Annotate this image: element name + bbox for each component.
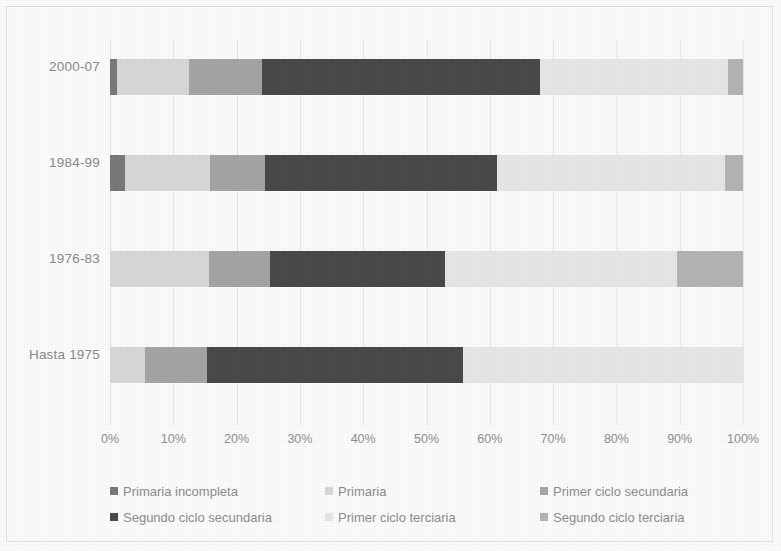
bar-segment[interactable] (110, 251, 209, 287)
legend-swatch-icon-3 (110, 513, 118, 521)
x-axis-tick-0: 0% (101, 432, 119, 446)
plot-area (110, 40, 743, 425)
x-axis-tick-20: 20% (224, 432, 249, 446)
y-axis-label-1: 1984-99 (0, 155, 100, 170)
bar-segment[interactable] (110, 155, 125, 191)
legend-item-primer-ciclo-terciaria[interactable]: Primer ciclo terciaria (325, 510, 540, 525)
legend-swatch-icon-5 (540, 513, 548, 521)
stacked-bar-chart: 2000-07 1984-99 1976-83 Hasta 1975 0%10%… (0, 0, 781, 551)
legend-item-primer-ciclo-secundaria[interactable]: Primer ciclo secundaria (540, 484, 750, 499)
bar-1984-99 (110, 155, 743, 191)
x-axis-tick-100: 100% (727, 432, 759, 446)
bar-1976-83 (110, 251, 743, 287)
x-axis-tick-90: 90% (667, 432, 692, 446)
legend-label-4: Primer ciclo terciaria (338, 510, 456, 525)
legend-swatch-icon-4 (325, 513, 333, 521)
x-axis-tick-10: 10% (161, 432, 186, 446)
x-axis-tick-50: 50% (414, 432, 439, 446)
bar-segment[interactable] (209, 251, 270, 287)
bar-segment[interactable] (110, 59, 117, 95)
legend-label-0: Primaria incompleta (123, 484, 238, 499)
gridline-100 (743, 40, 744, 425)
bar-hasta-1975 (110, 347, 743, 383)
bar-segment[interactable] (145, 347, 207, 383)
x-axis-labels: 0%10%20%30%40%50%60%70%80%90%100% (0, 432, 781, 452)
x-axis-tick-80: 80% (604, 432, 629, 446)
bar-segment[interactable] (445, 251, 677, 287)
y-axis-label-0: 2000-07 (0, 59, 100, 74)
legend-label-2: Primer ciclo secundaria (553, 484, 688, 499)
legend-swatch-icon-2 (540, 487, 548, 495)
y-axis-label-2: 1976-83 (0, 251, 100, 266)
legend-item-primaria[interactable]: Primaria (325, 484, 540, 499)
bar-segment[interactable] (497, 155, 726, 191)
bar-segment[interactable] (262, 59, 540, 95)
x-axis-tick-30: 30% (287, 432, 312, 446)
bar-segment[interactable] (270, 251, 445, 287)
bar-segment[interactable] (677, 251, 743, 287)
bar-segment[interactable] (125, 155, 210, 191)
bar-segment[interactable] (540, 59, 729, 95)
legend-item-segundo-ciclo-secundaria[interactable]: Segundo ciclo secundaria (110, 510, 325, 525)
y-axis-labels: 2000-07 1984-99 1976-83 Hasta 1975 (0, 40, 100, 425)
x-axis-tick-40: 40% (351, 432, 376, 446)
y-axis-label-3: Hasta 1975 (0, 347, 100, 362)
legend-label-5: Segundo ciclo terciaria (553, 510, 685, 525)
chart-page: 2000-07 1984-99 1976-83 Hasta 1975 0%10%… (0, 0, 781, 551)
bar-segment[interactable] (110, 347, 145, 383)
legend-label-1: Primaria (338, 484, 386, 499)
legend-swatch-icon-1 (325, 487, 333, 495)
bar-segment[interactable] (265, 155, 497, 191)
bar-segment[interactable] (210, 155, 265, 191)
legend-item-segundo-ciclo-terciaria[interactable]: Segundo ciclo terciaria (540, 510, 750, 525)
legend-row-1: Primaria incompleta Primaria Primer cicl… (110, 478, 750, 504)
legend-swatch-icon-0 (110, 487, 118, 495)
legend-item-primaria-incompleta[interactable]: Primaria incompleta (110, 484, 325, 499)
bar-segment[interactable] (463, 347, 743, 383)
legend-row-2: Segundo ciclo secundaria Primer ciclo te… (110, 504, 750, 530)
bar-segment[interactable] (117, 59, 189, 95)
bar-segment[interactable] (207, 347, 463, 383)
legend-label-3: Segundo ciclo secundaria (123, 510, 272, 525)
x-axis-tick-60: 60% (477, 432, 502, 446)
chart-legend: Primaria incompleta Primaria Primer cicl… (110, 478, 750, 530)
bar-segment[interactable] (725, 155, 743, 191)
bar-2000-07 (110, 59, 743, 95)
bar-segment[interactable] (728, 59, 743, 95)
x-axis-tick-70: 70% (541, 432, 566, 446)
bar-segment[interactable] (189, 59, 262, 95)
